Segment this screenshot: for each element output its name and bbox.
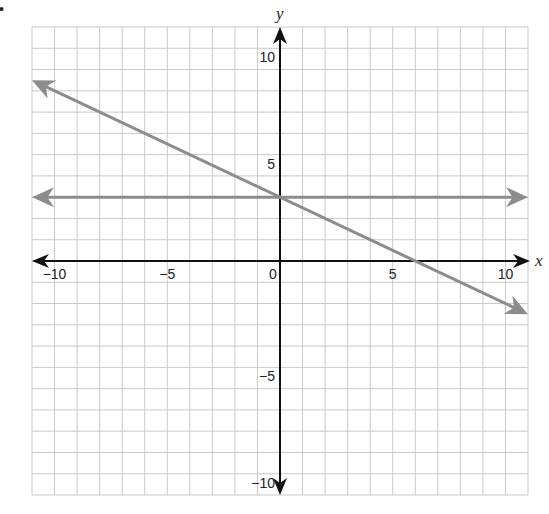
y-axis-label: y [274,4,284,23]
x-tick-label: 5 [389,266,397,282]
x-tick-label: 0 [269,266,277,282]
axes [32,27,530,495]
y-tick-label: 5 [267,156,275,172]
tick-labels: −10−50510105−5−10 [43,49,514,490]
x-tick-label: −10 [43,266,67,282]
coordinate-plane: −10−50510105−5−10 x y [0,0,549,514]
x-tick-label: −5 [159,266,175,282]
x-tick-label: 10 [498,266,514,282]
y-tick-label: 10 [259,49,275,65]
x-axis-label: x [534,251,543,270]
y-tick-label: −5 [259,368,275,384]
y-tick-label: −10 [251,475,275,491]
